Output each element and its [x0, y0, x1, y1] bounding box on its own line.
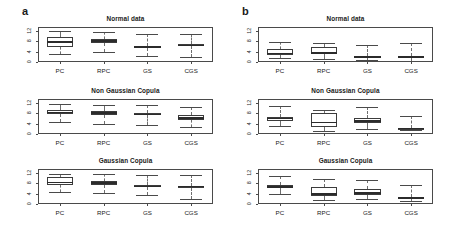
subplot-a-3: Gaussian Copula04812PCRPCGSCGS — [22, 158, 214, 220]
whisker-cap-lower — [313, 59, 335, 60]
x-tick-label-pc: PC — [258, 140, 302, 146]
y-tick-label: 8 — [247, 178, 252, 188]
whisker-cap-upper — [269, 106, 291, 107]
x-tick-label-rpc: RPC — [302, 68, 346, 74]
whisker-cap-lower — [356, 129, 378, 130]
whisker-lower — [104, 43, 105, 52]
whisker-upper — [367, 45, 368, 56]
y-tick-label: 0 — [27, 57, 32, 67]
x-tick-label-cgs: CGS — [169, 140, 213, 146]
figure-boxplot-grid: abNormal data04812PCRPCGSCGSNon Gaussian… — [0, 0, 452, 226]
y-tick-label: 0 — [27, 129, 32, 139]
whisker-cap-upper — [269, 176, 291, 177]
x-tick-mark — [280, 134, 281, 136]
y-tick-label: 12 — [247, 98, 252, 108]
boxplot-median — [398, 56, 424, 57]
x-tick-mark — [324, 204, 325, 206]
whisker-cap-lower — [269, 194, 291, 195]
whisker-cap-upper — [356, 180, 378, 181]
x-tick-label-pc: PC — [258, 210, 302, 216]
y-tick-label: 8 — [247, 108, 252, 118]
x-tick-label-rpc: RPC — [302, 140, 346, 146]
y-tick-label: 4 — [247, 188, 252, 198]
x-tick-label-rpc: RPC — [82, 210, 126, 216]
boxplot-median — [398, 128, 424, 129]
boxplot-median — [178, 45, 204, 46]
y-tick-mark — [256, 62, 258, 63]
y-tick-label: 0 — [247, 199, 252, 209]
y-tick-label: 0 — [247, 129, 252, 139]
x-tick-label-gs: GS — [346, 140, 390, 146]
boxplot-median — [267, 53, 293, 55]
x-tick-label-cgs: CGS — [169, 68, 213, 74]
whisker-cap-lower — [356, 199, 378, 200]
x-tick-label-cgs: CGS — [389, 68, 433, 74]
boxplot-median — [47, 182, 73, 184]
y-tick-label: 4 — [27, 118, 32, 128]
y-tick-label: 4 — [27, 188, 32, 198]
y-tick-mark — [256, 103, 258, 104]
whisker-lower — [104, 185, 105, 193]
whisker-cap-lower — [49, 192, 71, 193]
whisker-upper — [324, 179, 325, 187]
whisker-lower — [147, 48, 148, 56]
x-tick-mark — [60, 134, 61, 136]
whisker-cap-upper — [400, 43, 422, 44]
x-tick-label-gs: GS — [346, 68, 390, 74]
x-tick-mark — [280, 204, 281, 206]
whisker-cap-upper — [313, 110, 335, 111]
whisker-cap-lower — [180, 127, 202, 128]
whisker-cap-upper — [49, 104, 71, 105]
boxplot-median — [354, 192, 380, 194]
subplot-b-2: Non Gaussian Copula04812PCRPCGSCGS — [242, 88, 434, 150]
whisker-upper — [280, 176, 281, 185]
whisker-cap-upper — [93, 174, 115, 175]
x-tick-mark — [191, 204, 192, 206]
x-tick-mark — [367, 134, 368, 136]
subplot-b-3: Gaussian Copula04812PCRPCGSCGS — [242, 158, 434, 220]
y-tick-label: 0 — [247, 57, 252, 67]
y-tick-mark — [256, 183, 258, 184]
whisker-cap-lower — [93, 193, 115, 194]
y-tick-label: 8 — [27, 178, 32, 188]
y-tick-mark — [36, 103, 38, 104]
boxplot-median — [91, 112, 117, 114]
y-tick-mark — [256, 52, 258, 53]
boxplot-median — [267, 186, 293, 188]
subplot-b-1: Normal data04812PCRPCGSCGS — [242, 16, 434, 78]
whisker-lower — [147, 187, 148, 195]
boxplot-median — [178, 117, 204, 119]
x-tick-mark — [324, 62, 325, 64]
whisker-lower — [104, 115, 105, 124]
x-tick-mark — [147, 204, 148, 206]
x-tick-label-rpc: RPC — [302, 210, 346, 216]
y-tick-mark — [256, 113, 258, 114]
whisker-cap-upper — [136, 175, 158, 176]
y-tick-label: 12 — [247, 26, 252, 36]
whisker-lower — [191, 188, 192, 199]
whisker-lower — [60, 114, 61, 122]
x-tick-label-gs: GS — [126, 68, 170, 74]
whisker-upper — [367, 107, 368, 118]
y-tick-label: 4 — [27, 46, 32, 56]
whisker-cap-lower — [136, 195, 158, 196]
whisker-upper — [191, 175, 192, 185]
boxplot-median — [354, 120, 380, 122]
subplot-a-2: Non Gaussian Copula04812PCRPCGSCGS — [22, 88, 214, 150]
x-tick-mark — [411, 204, 412, 206]
whisker-upper — [104, 174, 105, 181]
y-tick-mark — [36, 52, 38, 53]
whisker-upper — [367, 180, 368, 189]
whisker-cap-lower — [93, 124, 115, 125]
x-tick-mark — [60, 62, 61, 64]
x-tick-label-gs: GS — [126, 140, 170, 146]
boxplot-median — [178, 186, 204, 187]
x-tick-label-rpc: RPC — [82, 140, 126, 146]
x-tick-label-gs: GS — [346, 210, 390, 216]
x-tick-mark — [191, 134, 192, 136]
whisker-upper — [147, 175, 148, 185]
whisker-upper — [411, 116, 412, 127]
whisker-cap-upper — [269, 42, 291, 43]
y-tick-label: 12 — [247, 168, 252, 178]
whisker-cap-lower — [400, 201, 422, 202]
